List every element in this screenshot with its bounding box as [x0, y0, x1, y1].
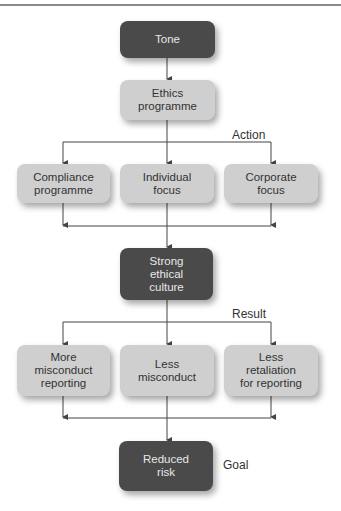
node-strong-ethical-culture: Strong ethical culture: [120, 248, 213, 300]
node-less-retaliation: Less retaliation for reporting: [224, 345, 318, 396]
label-action: Action: [232, 128, 265, 142]
node-corporate-focus: Corporate focus: [224, 164, 318, 203]
node-tone: Tone: [120, 21, 215, 58]
node-risk-label: Reduced risk: [143, 453, 189, 479]
node-ethics-label: Ethics programme: [138, 87, 197, 113]
node-corporate-label: Corporate focus: [245, 171, 296, 197]
node-tone-label: Tone: [155, 33, 180, 46]
node-reduced-risk: Reduced risk: [119, 441, 213, 491]
label-goal: Goal: [223, 458, 248, 472]
node-misconduct-label: Less misconduct: [138, 358, 196, 384]
node-compliance-label: Compliance programme: [33, 171, 94, 197]
node-compliance-programme: Compliance programme: [17, 164, 110, 203]
node-reporting-label: More misconduct reporting: [34, 351, 92, 390]
node-individual-focus: Individual focus: [120, 164, 214, 203]
node-ethics-programme: Ethics programme: [120, 80, 215, 120]
node-retaliation-label: Less retaliation for reporting: [240, 351, 302, 390]
node-culture-label: Strong ethical culture: [149, 255, 184, 294]
node-individual-label: Individual focus: [143, 171, 192, 197]
node-less-misconduct: Less misconduct: [120, 345, 214, 396]
label-result: Result: [232, 307, 266, 321]
node-more-misconduct-reporting: More misconduct reporting: [17, 345, 110, 396]
